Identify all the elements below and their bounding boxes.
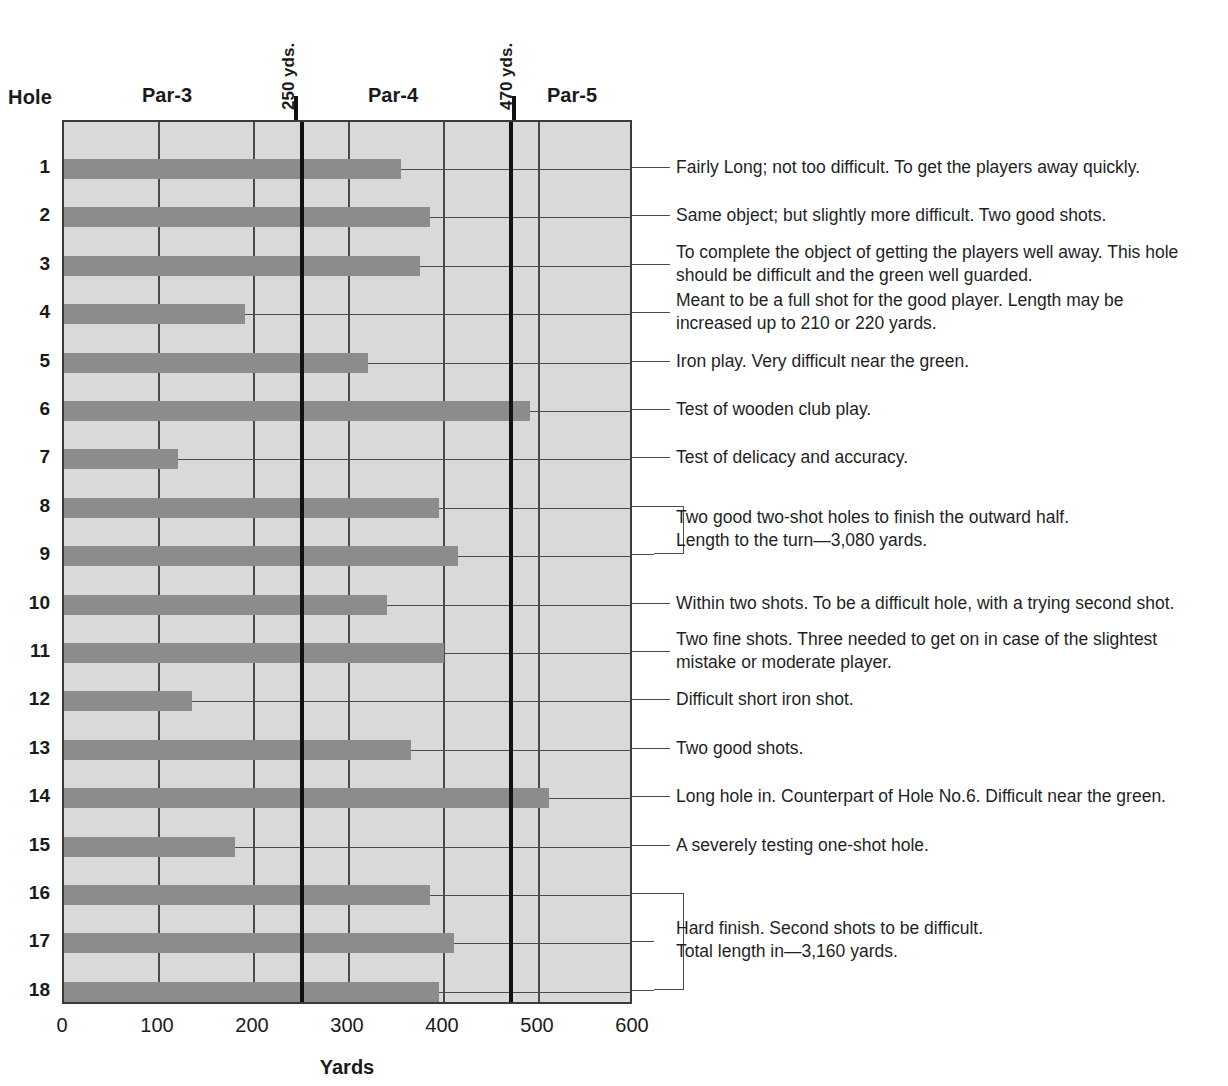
leader-inner-hole-16 [430,895,632,896]
bar-hole-14 [64,788,549,808]
bar-hole-8 [64,498,439,518]
leader-outer-hole-9 [632,554,654,555]
bar-hole-2 [64,207,430,227]
annotation-hole-15: A severely testing one-shot hole. [676,834,1228,857]
par-4-region-label: Par-4 [368,84,418,107]
hole-number-12: 12 [8,688,50,710]
leader-inner-hole-5 [368,363,632,364]
bar-hole-1 [64,159,401,179]
leader-inner-hole-15 [235,847,632,848]
bar-hole-4 [64,304,245,324]
hole-number-13: 13 [8,737,50,759]
hole-number-9: 9 [8,543,50,565]
x-tick-400: 400 [425,1014,458,1037]
hole-number-3: 3 [8,253,50,275]
x-tick-100: 100 [140,1014,173,1037]
hole-number-17: 17 [8,930,50,952]
annotation-hole-2: Same object; but slightly more difficult… [676,204,1228,227]
hole-number-16: 16 [8,882,50,904]
bar-hole-6 [64,401,530,421]
leader-outer-hole-1 [632,167,670,168]
x-tick-0: 0 [56,1014,67,1037]
bar-hole-7 [64,449,178,469]
leader-outer-hole-17 [632,941,654,942]
leader-outer-hole-14 [632,796,670,797]
leader-outer-hole-16 [632,893,654,894]
hole-number-11: 11 [8,640,50,662]
annotation-hole-11: Two fine shots. Three needed to get on i… [676,628,1228,674]
x-tick-200: 200 [235,1014,268,1037]
hole-number-6: 6 [8,398,50,420]
leader-inner-hole-8 [439,508,632,509]
leader-inner-hole-17 [454,943,633,944]
marker-line-250 [300,122,304,1002]
marker-stub-470 [512,96,516,120]
x-tick-300: 300 [330,1014,363,1037]
annotation-hole-13: Two good shots. [676,737,1228,760]
leader-inner-hole-11 [444,653,632,654]
hole-column-header: Hole [8,86,52,109]
leader-outer-hole-6 [632,409,670,410]
leader-outer-hole-10 [632,603,670,604]
leader-inner-hole-2 [430,217,632,218]
leader-outer-hole-12 [632,699,670,700]
bar-hole-5 [64,353,368,373]
annotation-hole-4: Meant to be a full shot for the good pla… [676,289,1228,335]
gridline-500 [538,122,540,1002]
leader-inner-hole-1 [401,169,632,170]
annotation-hole-1: Fairly Long; not too difficult. To get t… [676,156,1228,179]
leader-inner-hole-3 [420,266,632,267]
bar-hole-17 [64,933,454,953]
annotation-hole-7: Test of delicacy and accuracy. [676,446,1228,469]
x-tick-600: 600 [615,1014,648,1037]
chart-canvas: Hole Par-3 Par-4 Par-5 250 yds. 470 yds.… [0,0,1228,1086]
leader-inner-hole-6 [530,411,633,412]
bar-hole-9 [64,546,458,566]
leader-inner-hole-14 [549,798,633,799]
leader-inner-hole-18 [439,992,632,993]
annotation-hole-5: Iron play. Very difficult near the green… [676,350,1228,373]
bar-hole-12 [64,691,192,711]
leader-outer-hole-2 [632,215,670,216]
marker-stub-250 [294,96,298,120]
annotation-inward-finish: Hard finish. Second shots to be difficul… [676,917,1228,963]
bar-hole-16 [64,885,430,905]
leader-inner-hole-13 [411,750,632,751]
leader-outer-hole-5 [632,361,670,362]
hole-number-2: 2 [8,204,50,226]
hole-number-14: 14 [8,785,50,807]
hole-number-1: 1 [8,156,50,178]
annotation-hole-6: Test of wooden club play. [676,398,1228,421]
annotation-hole-12: Difficult short iron shot. [676,688,1228,711]
annotation-hole-14: Long hole in. Counterpart of Hole No.6. … [676,785,1228,808]
annotation-outward-finish: Two good two-shot holes to finish the ou… [676,506,1228,552]
hole-number-15: 15 [8,834,50,856]
leader-inner-hole-7 [178,459,632,460]
hole-number-7: 7 [8,446,50,468]
leader-outer-hole-18 [632,990,654,991]
marker-line-470 [509,122,513,1002]
leader-outer-hole-4 [632,312,670,313]
x-tick-500: 500 [520,1014,553,1037]
leader-inner-hole-12 [192,701,632,702]
leader-outer-hole-11 [632,651,670,652]
hole-number-5: 5 [8,350,50,372]
hole-number-4: 4 [8,301,50,323]
leader-outer-hole-7 [632,457,670,458]
hole-number-18: 18 [8,979,50,1001]
leader-outer-hole-13 [632,748,670,749]
bar-hole-15 [64,837,235,857]
bar-hole-18 [64,982,439,1002]
plot-area [62,120,632,1004]
bar-hole-3 [64,256,420,276]
leader-outer-hole-3 [632,264,670,265]
par-5-region-label: Par-5 [547,84,597,107]
leader-outer-hole-8 [632,506,654,507]
annotation-hole-10: Within two shots. To be a difficult hole… [676,592,1228,615]
par-3-region-label: Par-3 [142,84,192,107]
annotation-hole-3: To complete the object of getting the pl… [676,241,1228,287]
leader-outer-hole-15 [632,845,670,846]
bar-hole-13 [64,740,411,760]
leader-inner-hole-9 [458,556,632,557]
x-axis-title: Yards [320,1056,374,1079]
